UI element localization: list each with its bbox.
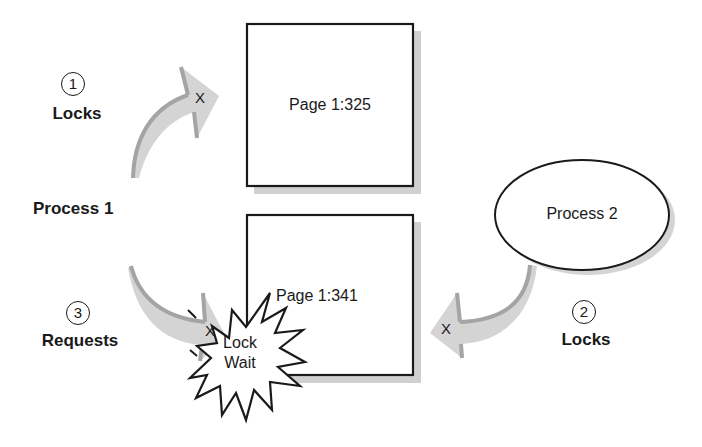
arrow-1-locks-icon [133,67,219,178]
page-a-label: Page 1:325 [289,96,371,114]
lock-wait-label: Lock Wait [223,333,257,373]
diagram-graphics [0,0,702,447]
step-2-blocked-x-icon: X [441,320,451,337]
step-1-badge: 1 [61,72,85,96]
lock-wait-line1: Lock [223,333,257,353]
step-1-label: Locks [52,104,101,124]
step-3-blocked-x-icon: X [205,322,215,339]
arrow-2-locks-icon [430,265,537,358]
deadlock-diagram: Page 1:325 Page 1:341 Process 1 Process … [0,0,702,447]
step-3-label: Requests [42,331,119,351]
step-2-label: Locks [561,330,610,350]
step-3-badge: 3 [66,301,90,325]
step-2-badge: 2 [572,300,596,324]
lock-wait-line2: Wait [223,353,257,373]
process2-label: Process 2 [546,205,617,223]
process1-label: Process 1 [33,199,113,219]
step-1-blocked-x-icon: X [195,89,205,106]
page-b-label: Page 1:341 [276,287,358,305]
